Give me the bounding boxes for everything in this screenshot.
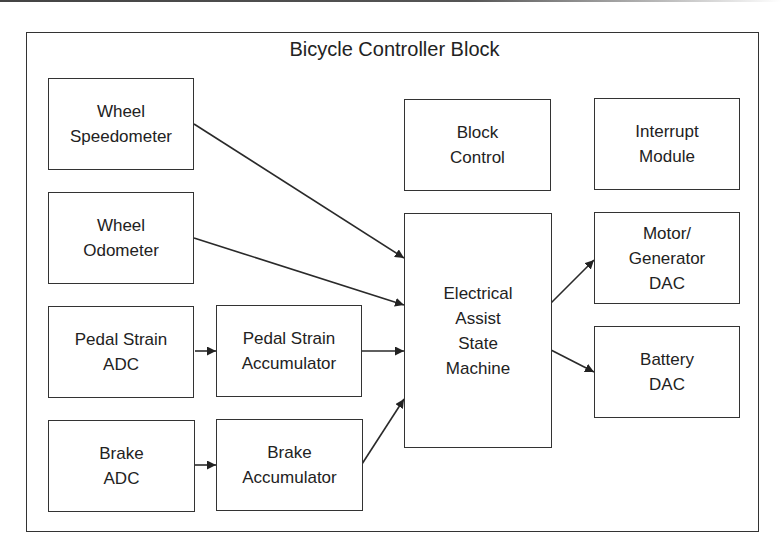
block-pedal-strain-adc: Pedal Strain ADC (48, 306, 194, 398)
block-label: Pedal Strain Accumulator (242, 326, 336, 376)
block-label: Wheel Speedometer (70, 99, 172, 149)
block-block-control: Block Control (404, 99, 551, 191)
block-label: Wheel Odometer (83, 213, 159, 263)
block-label: Motor/ Generator DAC (629, 221, 706, 296)
arrow-odometer-to-state-machine (194, 238, 404, 305)
block-label: Electrical Assist State Machine (444, 281, 513, 381)
block-label: Brake Accumulator (242, 440, 336, 490)
block-brake-accumulator: Brake Accumulator (216, 419, 363, 511)
arrow-speedometer-to-state-machine (194, 124, 404, 258)
arrow-state-machine-to-battery-dac (551, 350, 594, 372)
arrow-brake-accumulator-to-state-machine (362, 399, 404, 464)
block-label: Interrupt Module (635, 119, 698, 169)
block-interrupt-module: Interrupt Module (594, 98, 740, 190)
block-label: Brake ADC (99, 441, 143, 491)
block-electrical-assist-state-machine: Electrical Assist State Machine (404, 213, 552, 448)
block-label: Block Control (450, 120, 505, 170)
block-battery-dac: Battery DAC (594, 326, 740, 418)
block-label: Pedal Strain ADC (75, 327, 168, 377)
block-wheel-odometer: Wheel Odometer (48, 192, 194, 284)
arrow-state-machine-to-motor-dac (551, 260, 594, 303)
block-label: Battery DAC (640, 347, 694, 397)
block-wheel-speedometer: Wheel Speedometer (48, 78, 194, 170)
block-motor-generator-dac: Motor/ Generator DAC (594, 212, 740, 304)
block-brake-adc: Brake ADC (48, 420, 195, 512)
block-pedal-strain-accumulator: Pedal Strain Accumulator (216, 305, 362, 397)
